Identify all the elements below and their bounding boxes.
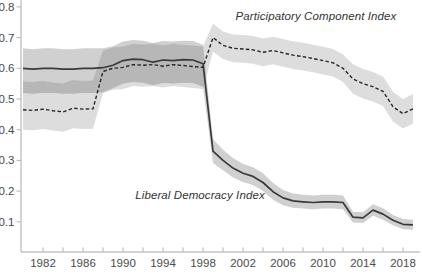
line-chart-canvas: 0.10.20.30.40.50.60.70.81982198619901994… (0, 0, 422, 275)
x-tick-label: 2002 (230, 257, 256, 269)
x-tick-label: 1998 (190, 257, 216, 269)
y-tick-label: 0.6 (0, 62, 15, 74)
y-tick-label: 0.2 (0, 185, 15, 197)
x-tick-label: 1994 (150, 257, 176, 269)
x-tick-label: 1982 (30, 257, 56, 269)
x-tick-label: 1990 (110, 257, 136, 269)
y-tick-group: 0.10.20.30.40.50.60.70.8 (0, 1, 21, 228)
x-tick-group: 1982198619901994199820022006201020142018 (30, 248, 416, 269)
y-tick-label: 0.4 (0, 124, 15, 136)
x-tick-label: 2006 (270, 257, 296, 269)
y-tick-label: 0.8 (0, 1, 15, 13)
y-tick-label: 0.5 (0, 93, 15, 105)
y-tick-label: 0.3 (0, 154, 15, 166)
x-tick-label: 2018 (390, 257, 416, 269)
x-tick-label: 1986 (70, 257, 96, 269)
x-tick-label: 2014 (350, 257, 376, 269)
y-tick-label: 0.1 (0, 216, 15, 228)
chart-figure: 0.10.20.30.40.50.60.70.81982198619901994… (0, 0, 422, 275)
y-tick-label: 0.7 (0, 32, 15, 44)
series-label-liberal-democracy-index: Liberal Democracy Index (135, 189, 265, 201)
series-label-participatory-component-index: Participatory Component Index (236, 10, 397, 22)
x-tick-label: 2010 (310, 257, 336, 269)
